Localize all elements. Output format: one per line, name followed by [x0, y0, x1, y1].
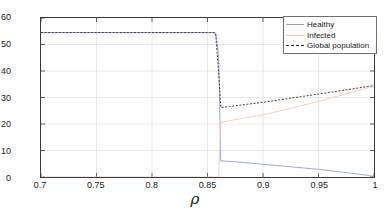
x-tick-label: 0.85	[199, 181, 217, 190]
series-line	[41, 86, 374, 177]
y-tick-label: 30	[0, 93, 11, 102]
y-tick-label: 60	[0, 13, 11, 22]
series-line	[41, 33, 374, 177]
y-tick-label: 0	[0, 174, 11, 183]
legend-item[interactable]: Infected	[286, 30, 373, 40]
x-tick-label: 0.75	[87, 181, 105, 190]
x-tick-label: 0.8	[145, 181, 158, 190]
chart-figure: 01020304050600.70.750.80.850.90.951 Popu…	[0, 0, 390, 220]
legend[interactable]: HealthyInfectedGlobal population	[283, 16, 377, 54]
legend-item-label: Healthy	[307, 20, 334, 29]
y-tick-label: 10	[0, 147, 11, 156]
legend-item[interactable]: Global population	[286, 41, 373, 51]
x-tick-label: 0.95	[310, 181, 328, 190]
x-tick-label: 0.9	[257, 181, 270, 190]
legend-swatch-icon	[286, 45, 304, 46]
legend-item[interactable]: Healthy	[286, 20, 373, 30]
y-tick-label: 40	[0, 66, 11, 75]
y-tick-label: 50	[0, 39, 11, 48]
legend-item-label: Global population	[307, 41, 369, 50]
legend-item-label: Infected	[307, 31, 335, 40]
x-tick-label: 0.7	[34, 181, 47, 190]
legend-swatch-icon	[286, 24, 304, 25]
x-axis-label: ρ	[0, 192, 390, 207]
y-tick-label: 20	[0, 120, 11, 129]
legend-swatch-icon	[286, 35, 304, 36]
x-tick-label: 1	[372, 181, 377, 190]
